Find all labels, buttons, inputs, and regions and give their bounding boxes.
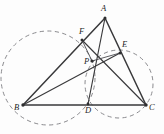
dashed-circles-group xyxy=(1,31,153,125)
point-label-B: B xyxy=(14,103,19,112)
vertex-dot-E xyxy=(119,52,122,55)
vertex-dot-A xyxy=(104,17,107,20)
point-label-E: E xyxy=(122,40,127,49)
point-label-D: D xyxy=(85,106,91,115)
geometry-figure: A B C D E F P xyxy=(0,0,164,134)
point-label-C: C xyxy=(149,103,155,112)
cevian-BE-line xyxy=(23,53,120,105)
point-label-P: P xyxy=(84,57,89,66)
vertex-dot-F xyxy=(81,39,84,42)
side-AC-line xyxy=(105,18,146,105)
vertex-dot-C xyxy=(144,103,147,106)
vertex-dot-P xyxy=(90,59,93,62)
figure-canvas xyxy=(0,0,164,134)
vertex-dot-B xyxy=(21,103,24,106)
point-label-F: F xyxy=(79,27,84,36)
point-label-A: A xyxy=(101,4,106,13)
